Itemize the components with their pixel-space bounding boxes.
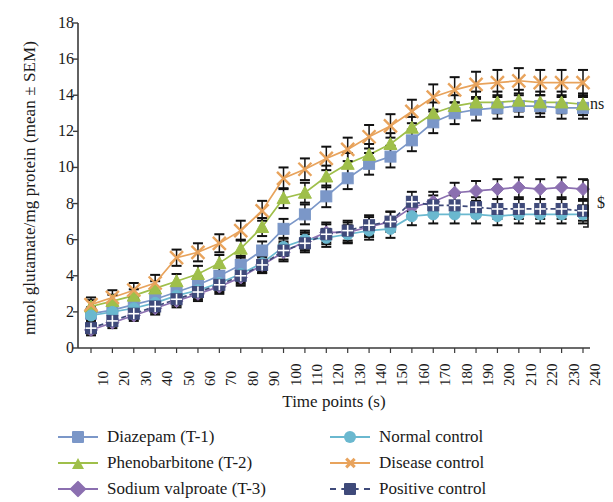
- x-tick-180: 180: [460, 364, 475, 387]
- legend-marker-positive_control-icon: [330, 482, 370, 496]
- series-markers-positive_control: [86, 196, 589, 333]
- series-line-sodium_valproate: [91, 187, 583, 330]
- chart-figure: nmol glutamate/mg protein (mean ± SEM) 1…: [0, 0, 613, 502]
- series-line-diazepam: [91, 106, 583, 314]
- x-tick-40: 40: [160, 371, 175, 386]
- chart-legend: Diazepam (T-1)Phenobarbitone (T-2)Sodium…: [0, 424, 613, 502]
- series-line-phenobarbitone: [91, 101, 583, 307]
- x-tick-120: 120: [331, 364, 346, 387]
- x-tick-190: 190: [481, 364, 496, 387]
- x-tick-10: 10: [96, 371, 111, 386]
- series-line-normal_control: [91, 214, 583, 315]
- x-tick-170: 170: [438, 364, 453, 387]
- legend-item-normal_control[interactable]: Normal control: [330, 424, 486, 450]
- legend-column-right: Normal controlDisease controlPositive co…: [330, 424, 486, 502]
- series-line-disease_control: [91, 81, 583, 305]
- legend-marker-sodium_valproate-icon: [58, 482, 98, 496]
- legend-marker-diazepam-icon: [58, 430, 98, 444]
- legend-marker-phenobarbitone-icon: [58, 456, 98, 470]
- x-tick-140: 140: [374, 364, 389, 387]
- legend-marker-normal_control-icon: [330, 430, 370, 444]
- x-axis-title-text: Time points (s): [227, 392, 385, 411]
- legend-label-normal_control: Normal control: [379, 427, 483, 447]
- x-axis-title: Time points (s): [0, 392, 613, 412]
- legend-label-disease_control: Disease control: [379, 453, 484, 473]
- x-tick-230: 230: [567, 364, 582, 387]
- legend-item-phenobarbitone[interactable]: Phenobarbitone (T-2): [58, 450, 266, 476]
- errorbars-phenobarbitone: [86, 90, 588, 313]
- x-tick-210: 210: [524, 364, 539, 387]
- x-tick-50: 50: [182, 371, 197, 386]
- x-tick-220: 220: [545, 364, 560, 387]
- legend-marker-disease_control-icon: [330, 456, 370, 470]
- x-tick-20: 20: [117, 371, 132, 386]
- legend-item-positive_control[interactable]: Positive control: [330, 476, 486, 502]
- legend-label-phenobarbitone: Phenobarbitone (T-2): [107, 453, 252, 473]
- legend-item-disease_control[interactable]: Disease control: [330, 450, 486, 476]
- errorbars-sodium_valproate: [86, 177, 588, 335]
- x-tick-160: 160: [417, 364, 432, 387]
- annotation-dollar: $: [597, 194, 605, 212]
- x-tick-110: 110: [310, 364, 325, 386]
- errorbars-positive_control: [86, 192, 588, 334]
- x-tick-150: 150: [395, 364, 410, 387]
- x-tick-130: 130: [353, 364, 368, 387]
- annotation-ns: ns: [590, 95, 604, 113]
- series-line-positive_control: [91, 202, 583, 328]
- x-tick-80: 80: [246, 371, 261, 386]
- x-tick-70: 70: [224, 371, 239, 386]
- legend-label-positive_control: Positive control: [379, 479, 486, 499]
- legend-column-left: Diazepam (T-1)Phenobarbitone (T-2)Sodium…: [58, 424, 266, 502]
- x-tick-100: 100: [289, 364, 304, 387]
- x-tick-240: 240: [588, 364, 603, 387]
- legend-label-sodium_valproate: Sodium valproate (T-3): [107, 479, 266, 499]
- x-tick-90: 90: [267, 371, 282, 386]
- legend-item-diazepam[interactable]: Diazepam (T-1): [58, 424, 266, 450]
- x-tick-60: 60: [203, 371, 218, 386]
- legend-item-sodium_valproate[interactable]: Sodium valproate (T-3): [58, 476, 266, 502]
- x-tick-200: 200: [502, 364, 517, 387]
- legend-label-diazepam: Diazepam (T-1): [107, 427, 214, 447]
- x-tick-30: 30: [139, 371, 154, 386]
